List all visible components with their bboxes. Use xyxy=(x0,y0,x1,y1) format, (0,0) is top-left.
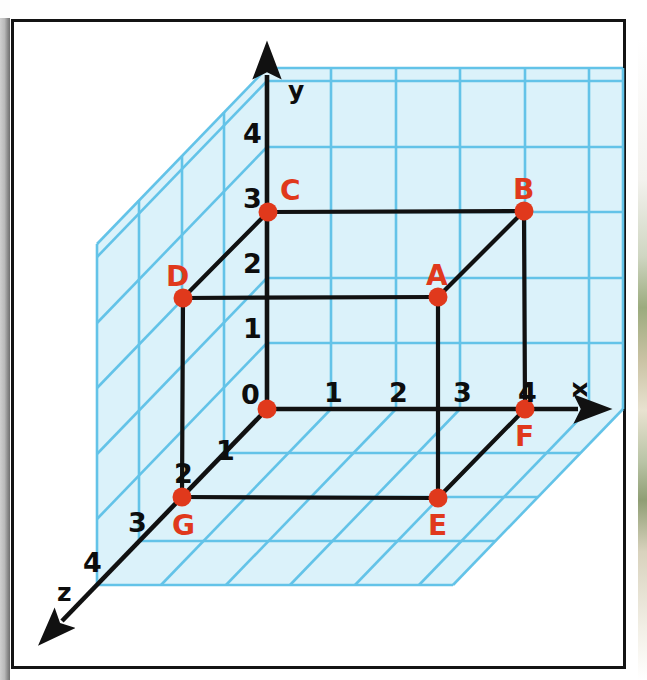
vertex-label-F: F xyxy=(515,423,534,451)
x-tick-2: 2 xyxy=(389,379,408,406)
edge-G-E xyxy=(182,497,438,498)
vertex-dot-E xyxy=(429,489,448,508)
back-plane-fill xyxy=(267,68,623,409)
origin-tick-label: 0 xyxy=(241,381,260,408)
z-tick-4: 4 xyxy=(83,549,102,576)
vertex-label-G: G xyxy=(172,512,195,540)
y-tick-2: 2 xyxy=(243,250,262,277)
z-tick-3: 3 xyxy=(128,509,147,536)
y-tick-1: 1 xyxy=(243,315,262,342)
vertex-label-E: E xyxy=(428,512,447,540)
z-tick-2: 2 xyxy=(174,460,193,487)
y-tick-3: 3 xyxy=(243,185,262,212)
x-tick-3: 3 xyxy=(453,379,472,406)
x-tick-1: 1 xyxy=(324,379,343,406)
vertex-label-B: B xyxy=(513,176,534,204)
back-plane-group xyxy=(267,68,623,409)
coordinate-system-figure xyxy=(0,0,647,680)
y-axis-label: y xyxy=(288,78,304,103)
edge-C-B xyxy=(268,211,524,212)
z-axis-label: z xyxy=(57,580,72,605)
y-tick-4: 4 xyxy=(243,120,262,147)
x-tick-4: 4 xyxy=(518,379,537,406)
page: y x z 0 1 2 3 4 1 2 3 4 1 2 3 4 A B C D … xyxy=(0,0,647,680)
x-axis-label: x xyxy=(569,381,594,397)
vertex-dot-origin xyxy=(258,400,277,419)
vertex-dot-G xyxy=(173,488,192,507)
vertex-label-C: C xyxy=(280,177,301,205)
vertex-label-D: D xyxy=(166,263,189,291)
vertex-label-A: A xyxy=(426,262,448,290)
edge-D-A xyxy=(183,297,438,298)
z-tick-1: 1 xyxy=(216,437,235,464)
